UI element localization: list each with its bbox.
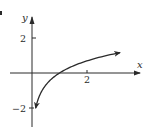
ln-curve — [36, 53, 120, 108]
y-axis-label: y — [21, 12, 28, 23]
ln-graph: y x 2 2 −2 — [0, 0, 153, 134]
y-axis — [29, 16, 36, 127]
x-axis-label: x — [137, 59, 143, 70]
x-tick-label-2: 2 — [84, 74, 90, 85]
y-tick-label-neg2: −2 — [12, 103, 26, 114]
y-tick-label-2: 2 — [20, 33, 26, 44]
y-axis-arrow-icon — [30, 16, 35, 24]
x-axis — [10, 70, 141, 76]
x-axis-arrow-icon — [134, 71, 141, 76]
panel-label-fragment — [0, 11, 2, 15]
